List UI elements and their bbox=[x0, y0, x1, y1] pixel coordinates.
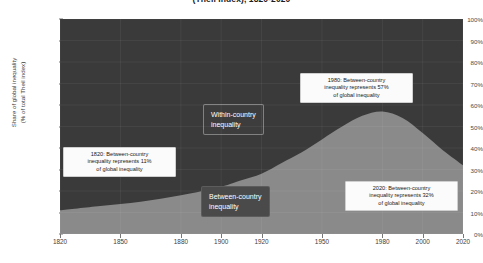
x-axis-tick-label: 1980 bbox=[362, 238, 402, 245]
x-axis-tick-mark bbox=[423, 234, 424, 238]
x-axis-tick-label: 1850 bbox=[100, 238, 140, 245]
x-axis-tick-label: 1950 bbox=[302, 238, 342, 245]
x-axis-tick-label: 1820 bbox=[40, 238, 80, 245]
x-axis-tick-label: 1920 bbox=[242, 238, 282, 245]
annotation-2020: 2020: Between-country inequality represe… bbox=[345, 181, 458, 211]
x-axis-tick-mark bbox=[60, 234, 61, 238]
annotation-1820-line1: 1820: Between-country bbox=[68, 151, 171, 158]
annotation-1820-line2: inequality represents 11% bbox=[68, 158, 171, 165]
x-axis-tick-label: 1900 bbox=[201, 238, 241, 245]
annotation-1980: 1980: Between-country inequality represe… bbox=[300, 73, 413, 103]
annotation-1980-line3: of global inequality bbox=[305, 92, 408, 99]
chart-title: (Theil index), 1820-2020 bbox=[0, 0, 483, 4]
region-label-within-line2: inequality bbox=[211, 120, 256, 130]
annotation-2020-line2: inequality represents 32% bbox=[350, 192, 453, 199]
x-axis-tick-mark bbox=[221, 234, 222, 238]
x-axis-tick-mark bbox=[181, 234, 182, 238]
annotation-1980-line2: inequality represents 57% bbox=[305, 84, 408, 91]
region-label-between-line1: Between-country bbox=[209, 192, 262, 202]
x-axis-tick-label: 1880 bbox=[161, 238, 201, 245]
x-axis-tick-label: 2000 bbox=[403, 238, 443, 245]
annotation-2020-line1: 2020: Between-country bbox=[350, 185, 453, 192]
x-axis-tick-mark bbox=[262, 234, 263, 238]
x-axis-tick-mark bbox=[382, 234, 383, 238]
annotation-1820: 1820: Between-country inequality represe… bbox=[63, 147, 176, 177]
region-label-between-line2: inequality bbox=[209, 202, 262, 212]
inequality-area-chart: (Theil index), 1820-2020 Share of global… bbox=[0, 0, 483, 263]
annotation-1980-line1: 1980: Between-country bbox=[305, 77, 408, 84]
x-axis-tick-mark bbox=[463, 234, 464, 238]
x-axis-tick-mark bbox=[120, 234, 121, 238]
y-axis-title-line1: Share of global inequality bbox=[10, 13, 19, 173]
x-axis-tick-label: 2020 bbox=[443, 238, 483, 245]
annotation-1820-line3: of global inequality bbox=[68, 166, 171, 173]
y-axis-title-line2: (% of total Theil index) bbox=[18, 13, 27, 173]
region-label-within-country: Within-country inequality bbox=[203, 104, 264, 135]
region-label-within-line1: Within-country bbox=[211, 110, 256, 120]
x-axis-tick-mark bbox=[322, 234, 323, 238]
region-label-between-country: Between-country inequality bbox=[201, 186, 270, 217]
y-axis-title: Share of global inequality (% of total T… bbox=[10, 13, 27, 173]
annotation-2020-line3: of global inequality bbox=[350, 200, 453, 207]
